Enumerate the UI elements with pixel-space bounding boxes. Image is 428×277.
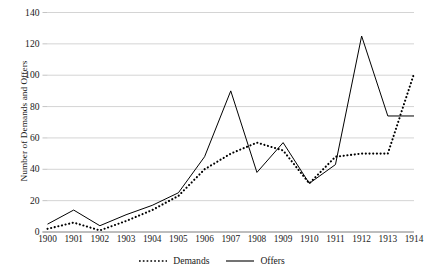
series-lines <box>48 36 415 230</box>
x-tick-label: 1914 <box>397 235 428 244</box>
chart-legend: Demands Offers <box>0 256 423 266</box>
legend-item-offers: Offers <box>225 256 284 266</box>
series-line-offers <box>48 36 415 226</box>
axis-lines <box>43 13 415 233</box>
legend-label-demands: Demands <box>173 256 209 266</box>
legend-label-offers: Offers <box>260 256 284 266</box>
series-line-demands <box>48 74 415 231</box>
legend-swatch-dotted <box>138 257 168 265</box>
legend-swatch-solid <box>225 257 255 265</box>
gridlines <box>48 13 415 201</box>
legend-item-demands: Demands <box>138 256 209 266</box>
